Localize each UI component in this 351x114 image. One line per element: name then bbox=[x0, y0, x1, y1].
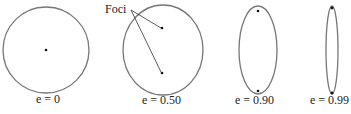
focus-point bbox=[161, 72, 164, 75]
focus-point bbox=[45, 49, 48, 52]
foci-label: Foci bbox=[105, 2, 126, 17]
ellipse-e099 bbox=[326, 6, 338, 94]
eccentricity-label-e090: e = 0.90 bbox=[235, 93, 274, 108]
focus-point bbox=[331, 7, 334, 10]
ellipse-e090 bbox=[239, 6, 277, 94]
eccentricity-label-e099: e = 0.99 bbox=[310, 93, 349, 108]
focus-point bbox=[257, 90, 260, 93]
eccentricity-label-e050: e = 0.50 bbox=[142, 93, 181, 108]
ellipse-e050 bbox=[123, 5, 203, 95]
focus-point bbox=[161, 27, 164, 30]
focus-point bbox=[257, 10, 260, 13]
eccentricity-label-e0: e = 0 bbox=[36, 92, 60, 107]
circle-e0 bbox=[3, 7, 89, 93]
